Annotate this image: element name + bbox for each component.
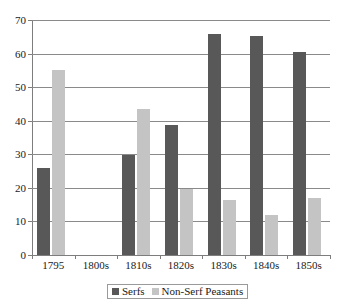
y-tick-label-60: 60 [15, 48, 26, 59]
x-tick-mark-1820s [160, 255, 161, 259]
x-tick-label-1800s: 1800s [83, 259, 109, 271]
chart-legend: Serfs Non-Serf Peasants [107, 284, 248, 299]
legend-entry-non-serf-peasants: Non-Serf Peasants [152, 286, 244, 297]
x-tick-label-1850s: 1850s [296, 259, 322, 271]
bar-non-serf-peasants-1840s [265, 215, 278, 255]
x-tick-mark-1830s [202, 255, 203, 259]
y-tick-label-10: 10 [15, 216, 26, 227]
bar-serfs-1850s [293, 52, 306, 255]
bars-layer [32, 20, 330, 255]
x-tick-mark-1795 [32, 255, 33, 259]
bar-serfs-1795 [37, 168, 50, 255]
x-tick-mark-1840s [245, 255, 246, 259]
y-tick-label-40: 40 [15, 115, 26, 126]
bar-non-serf-peasants-1830s [223, 200, 236, 255]
chart-figure: 010203040506070 17951800s1810s1820s1830s… [0, 0, 341, 307]
bar-serfs-1840s [250, 36, 263, 255]
x-tick-mark-1810s [117, 255, 118, 259]
bar-serfs-1810s [122, 155, 135, 255]
legend-label-serfs: Serfs [122, 286, 145, 297]
x-tick-mark-1850s [287, 255, 288, 259]
plot-area: 010203040506070 [32, 20, 330, 255]
legend-label-non-serf-peasants: Non-Serf Peasants [162, 286, 244, 297]
legend-swatch-non-serf-peasants [152, 288, 159, 295]
x-tick-label-1810s: 1810s [125, 259, 151, 271]
legend-entry-serfs: Serfs [112, 286, 145, 297]
bar-non-serf-peasants-1850s [308, 198, 321, 255]
x-tick-label-1795: 1795 [42, 259, 64, 271]
x-tick-label-1830s: 1830s [210, 259, 236, 271]
x-axis-line [32, 255, 331, 256]
bar-non-serf-peasants-1795 [52, 70, 65, 255]
y-tick-label-70: 70 [15, 15, 26, 26]
bar-serfs-1830s [208, 34, 221, 255]
x-tick-label-1820s: 1820s [168, 259, 194, 271]
bar-serfs-1820s [165, 125, 178, 255]
y-tick-label-50: 50 [15, 82, 26, 93]
y-tick-label-30: 30 [15, 149, 26, 160]
y-tick-label-0: 0 [21, 250, 27, 261]
x-tick-mark-1800s [75, 255, 76, 259]
bar-non-serf-peasants-1810s [137, 109, 150, 255]
x-tick-label-1840s: 1840s [253, 259, 279, 271]
legend-swatch-serfs [112, 288, 119, 295]
x-tick-mark-end [330, 255, 331, 259]
bar-non-serf-peasants-1820s [180, 189, 193, 255]
y-tick-label-20: 20 [15, 182, 26, 193]
